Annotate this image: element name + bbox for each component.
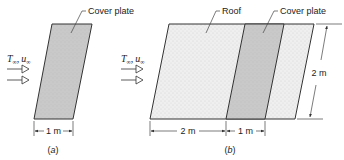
caption-b: (b) (224, 145, 235, 155)
flow-label-b: T∞,u∞ (121, 53, 145, 65)
width-label-a: 1 m (46, 126, 61, 136)
roof-width-dimension-b: 2 m (150, 121, 226, 136)
flow-label-a: T∞,u∞ (7, 53, 31, 65)
diagram-canvas: Cover plate T∞,u∞ 1 m (a) (0, 0, 344, 160)
caption-a: (a) (47, 145, 58, 155)
flow-arrow-icon (121, 65, 143, 73)
width-dimension-a: 1 m (34, 121, 73, 136)
flow-arrow-icon (7, 76, 29, 84)
plate-width-dimension-b: 1 m (227, 121, 265, 136)
panel-a: Cover plate T∞,u∞ 1 m (a) (7, 6, 134, 155)
height-label-b: 2 m (311, 68, 326, 78)
cover-plate-label-b: Cover plate (280, 6, 326, 16)
panel-b: Roof Cover plate T∞,u∞ 2 m (121, 6, 342, 155)
plate-width-label-b: 1 m (238, 126, 253, 136)
roof-label: Roof (222, 6, 242, 16)
cover-plate-a (34, 24, 92, 119)
flow-arrow-icon (121, 76, 143, 84)
flow-arrow-icon (7, 65, 29, 73)
roof-width-label-b: 2 m (180, 126, 195, 136)
cover-plate-label-a: Cover plate (88, 6, 134, 16)
